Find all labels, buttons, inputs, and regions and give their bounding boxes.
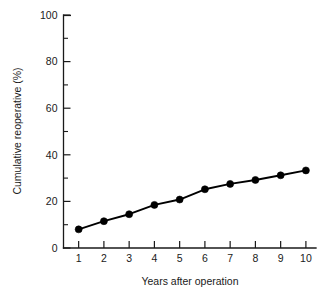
chart-container: 020406080100 12345678910 Years after ope…: [0, 0, 324, 297]
data-point-year-8: [252, 176, 259, 183]
x-tick-label-4: 4: [151, 252, 157, 264]
x-tick-label-7: 7: [227, 252, 233, 264]
data-point-year-5: [176, 196, 183, 203]
data-point-year-4: [151, 201, 158, 208]
data-point-year-1: [75, 226, 82, 233]
data-point-year-7: [227, 180, 234, 187]
x-tick-label-8: 8: [252, 252, 258, 264]
data-point-year-3: [126, 211, 133, 218]
axes-group: [64, 15, 317, 248]
x-tick-label-3: 3: [126, 252, 132, 264]
y-tick-label-0: 0: [52, 242, 58, 254]
y-tick-label-20: 20: [46, 195, 58, 207]
y-tick-label-60: 60: [46, 102, 58, 114]
y-tick-label-40: 40: [46, 149, 58, 161]
x-tick-label-10: 10: [300, 252, 312, 264]
x-tick-label-2: 2: [101, 252, 107, 264]
x-tick-label-1: 1: [76, 252, 82, 264]
y-axis-title: Cumulative reoperative (%): [11, 67, 23, 194]
x-tick-label-9: 9: [278, 252, 284, 264]
data-point-year-6: [201, 186, 208, 193]
y-tick-label-80: 80: [46, 55, 58, 67]
x-axis-title: Years after operation: [141, 275, 238, 287]
data-point-year-9: [277, 172, 284, 179]
data-point-year-10: [302, 167, 309, 174]
series-group: [75, 167, 309, 233]
x-axis-ticks: 12345678910: [76, 241, 312, 264]
y-axis-minor-ticks: [64, 38, 69, 224]
series-line-cumulative-reoperative: [79, 170, 306, 229]
line-chart: 020406080100 12345678910 Years after ope…: [0, 0, 324, 297]
data-point-year-2: [100, 218, 107, 225]
x-tick-label-6: 6: [202, 252, 208, 264]
y-tick-label-100: 100: [40, 9, 58, 21]
x-tick-label-5: 5: [177, 252, 183, 264]
